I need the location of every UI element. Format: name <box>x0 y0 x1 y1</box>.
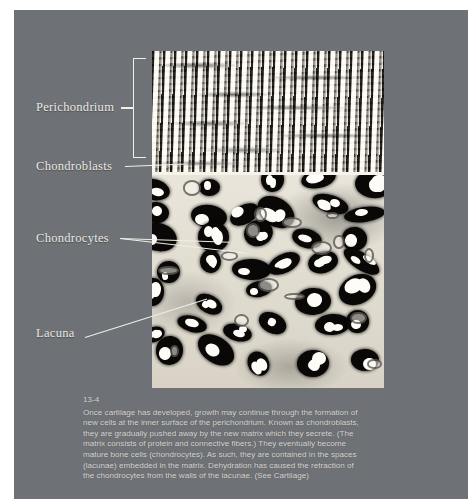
chondrocyte <box>306 292 322 307</box>
label-chondrocytes: Chondrocytes <box>36 231 109 246</box>
perichondrium-region <box>152 51 384 172</box>
figure-number: 13-4 <box>83 395 423 406</box>
chondrocyte <box>238 267 250 275</box>
caption-line: the chondrocytes from the walls of the l… <box>83 471 423 482</box>
chondrocyte <box>331 323 343 331</box>
caption-line: they are gradually pushed away by the ne… <box>83 429 423 440</box>
caption-line: mature bone cells (chondrocytes). As suc… <box>83 450 423 461</box>
figure-page: Perichondrium Chondroblasts Chondrocytes… <box>0 0 468 499</box>
label-lacuna: Lacuna <box>36 326 75 341</box>
lacuna-faint <box>282 217 301 228</box>
chondrocyte <box>203 226 212 237</box>
lacuna-faint <box>350 312 366 325</box>
lacuna-faint <box>170 345 179 357</box>
label-perichondrium: Perichondrium <box>36 100 114 115</box>
chondrocyte <box>265 175 272 185</box>
chondrocyte <box>374 179 384 192</box>
lacuna-faint <box>221 251 238 261</box>
chondrocyte <box>208 256 218 267</box>
caption-line: (lacunae) embedded in the matrix. Dehydr… <box>83 461 423 472</box>
lacuna-faint <box>367 359 381 369</box>
lacuna-faint <box>333 235 344 249</box>
perichondrium-bracket <box>133 58 146 158</box>
lacuna-faint <box>254 207 267 223</box>
lacuna-faint <box>258 278 279 292</box>
lacuna-faint <box>183 180 201 195</box>
caption-line: matrix consists of protein and connectiv… <box>83 439 423 450</box>
micrograph-image <box>152 51 384 388</box>
figure-caption: 13-4 Once cartilage has developed, growt… <box>83 395 423 482</box>
figure-plate: Perichondrium Chondroblasts Chondrocytes… <box>14 10 468 499</box>
label-chondroblasts: Chondroblasts <box>36 159 112 174</box>
lacuna-faint <box>326 212 339 219</box>
caption-line: Once cartilage has developed, growth may… <box>83 408 423 419</box>
caption-line: new cells at the inner surface of the pe… <box>83 418 423 429</box>
cartilage-matrix-region <box>152 175 384 388</box>
lacuna-faint <box>234 314 249 327</box>
